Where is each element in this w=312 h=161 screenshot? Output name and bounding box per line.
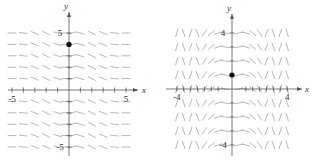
panel-1-slope-segment — [19, 147, 27, 148]
panel-2-x-axis-arrow — [297, 87, 302, 91]
panel-2-slope-segment — [279, 57, 281, 65]
panel-2-slope-segment — [176, 71, 178, 79]
panel-2-slope-segment — [182, 57, 184, 65]
panel-2-slope-segment — [286, 127, 288, 135]
panel-1-y-tick-label-min: -5 — [56, 142, 64, 152]
panel-1-slope-segment — [31, 111, 38, 114]
panel-2-x-axis-label: x — [304, 84, 309, 94]
panel-1-slope-segment — [77, 77, 85, 79]
panel-2-slope-segment — [286, 113, 288, 121]
panel-1-slope-segment — [54, 55, 62, 57]
panel-2-slope-segment — [272, 57, 274, 65]
panel-2-slope-segment — [189, 71, 191, 79]
panel-1-slope-segment — [19, 135, 27, 136]
panel-1-slope-segment — [99, 146, 106, 149]
panel-1-slope-segment — [43, 31, 50, 35]
panel-1-slope-segment — [19, 78, 27, 79]
panel-2-slope-segment — [235, 116, 243, 118]
panel-2-slope-segment — [250, 100, 256, 105]
panel-2-slope-segment — [208, 44, 214, 49]
panel-2-slope-segment — [176, 29, 178, 37]
panel-1-slope-segment — [111, 44, 119, 45]
panel-2-slope-segment — [265, 99, 268, 106]
panel-1-slope-segment — [54, 134, 62, 136]
panel-2-slope-segment — [265, 141, 268, 148]
panel-2-slope-segment — [257, 30, 261, 37]
panel-1-slope-segment — [31, 77, 38, 80]
panel-2-slope-segment — [221, 102, 229, 104]
panel-2-slope-segment — [272, 127, 274, 135]
panel-2-y-tick-label-min: -4 — [219, 140, 227, 150]
panel-2-slope-segment — [196, 29, 199, 36]
panel-1-slope-segment — [77, 100, 85, 102]
panel-2-slope-segment — [202, 58, 206, 65]
panel-1-slope-segment — [54, 43, 62, 45]
panel-2-slope-segment — [279, 29, 281, 37]
panel-1-y-axis-arrow — [67, 12, 71, 17]
panel-1-slope-segment — [111, 67, 119, 68]
panel-2-slope-segment — [182, 43, 184, 51]
panel-2-slope-segment — [279, 99, 281, 107]
panel-1-x-axis-label: x — [141, 85, 146, 95]
panel-2-slope-segment — [196, 127, 199, 134]
panel-2-slope-segment — [221, 116, 229, 118]
panel-1-slope-segment — [88, 54, 95, 58]
panel-2-slope-segment — [257, 128, 261, 135]
panel-1-slope-segment — [19, 44, 27, 45]
panel-2-slope-segment — [208, 58, 214, 63]
panel-2-x-tick-label-max: 4 — [285, 92, 290, 102]
panel-1-y-axis-label: y — [63, 1, 68, 11]
panel-1-slope-segment — [54, 77, 62, 79]
panel-2-slope-segment — [202, 44, 206, 51]
panel-2-slope-segment — [189, 99, 191, 107]
panel-1-slope-segment — [111, 124, 119, 125]
panel-2-slope-segment — [202, 142, 206, 149]
panel-1-slope-segment — [111, 135, 119, 136]
panel-1-slope-segment — [43, 43, 50, 47]
panel-2-slope-segment — [196, 71, 199, 78]
panel-1-slope-segment — [31, 54, 38, 57]
panel-1-slope-segment — [111, 55, 119, 56]
panel-2-y-axis-arrow — [230, 14, 234, 19]
panel-1-slope-segment — [88, 65, 95, 69]
panel-1-slope-segment — [43, 111, 50, 115]
panel-2-slope-segment — [182, 29, 184, 37]
panel-2-slope-segment — [242, 144, 250, 146]
panel-2-slope-segment — [176, 57, 178, 65]
panel-2-slope-segment — [189, 141, 191, 149]
panel-2-slope-segment — [208, 142, 214, 147]
panel-2-slope-segment — [189, 113, 191, 121]
panel-1-slope-segment — [77, 123, 85, 125]
panel-2-slope-segment — [279, 141, 281, 149]
panel-1-slope-segment — [77, 146, 85, 148]
panel-2-slope-segment — [257, 58, 261, 65]
panel-1-slope-segment — [43, 77, 50, 81]
panel-1-slope-segment — [31, 43, 38, 46]
panel-2-slope-segment — [235, 32, 243, 34]
panel-2-slope-segment — [182, 113, 184, 121]
panel-1-slope-segment — [77, 55, 85, 57]
panel-1-initial-point — [66, 42, 71, 47]
panel-2-slope-segment — [235, 60, 243, 62]
panel-2-slope-segment — [279, 43, 281, 51]
panel-1-slope-segment — [54, 123, 62, 125]
panel-1-slope-segment — [19, 124, 27, 125]
panel-2-slope-segment — [182, 99, 184, 107]
panel-2-slope-segment — [242, 32, 250, 34]
panel-2-slope-segment — [208, 128, 214, 133]
panel-2-slope-segment — [221, 46, 229, 48]
panel-1-slope-segment — [88, 145, 95, 149]
panel-2-slope-segment — [286, 43, 288, 51]
panel-2-x-tick-label-min: -4 — [173, 92, 181, 102]
panel-1-slope-segment — [88, 100, 95, 104]
panel-2-slope-segment — [202, 30, 206, 37]
panel-2-slope-segment — [235, 130, 243, 132]
panel-2-slope-segment — [272, 43, 274, 51]
panel-1-slope-segment — [43, 134, 50, 138]
panel-1-slope-segment — [111, 147, 119, 148]
panel-1-slope-segment — [19, 112, 27, 113]
panel-2-slope-segment — [279, 71, 281, 79]
panel-1-slope-segment — [99, 134, 106, 137]
panel-2-slope-segment — [272, 141, 274, 149]
panel-1-slope-segment — [31, 100, 38, 103]
